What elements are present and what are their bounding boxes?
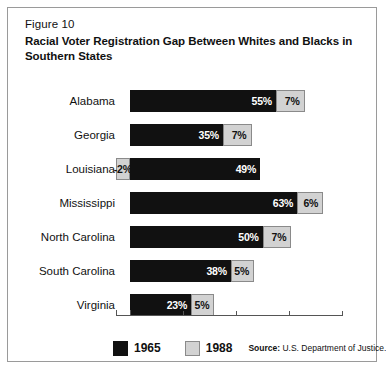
bar-value-1965: 35%	[195, 129, 223, 141]
chart-row: South Carolina38%5%	[8, 256, 376, 286]
figure-number: Figure 10	[25, 18, 74, 30]
bar-segment-1965: 49%	[130, 158, 260, 180]
bar-segment-1988: 7%	[223, 124, 252, 146]
bar-value-1965: 38%	[202, 265, 230, 277]
source-text: U.S. Department of Justice.	[282, 343, 386, 353]
bar-group: 55%7%	[8, 86, 376, 116]
axis-tick	[236, 311, 237, 316]
bar-group: 63%6%	[8, 188, 376, 218]
bar-segment-1988: 7%	[263, 226, 292, 248]
bar-group: 50%7%	[8, 222, 376, 252]
chart-row: Georgia35%7%	[8, 120, 376, 150]
source-prefix: Source:	[248, 343, 280, 353]
source-note: Source: U.S. Department of Justice.	[248, 343, 386, 353]
bar-segment-1988: 7%	[276, 90, 305, 112]
bar-segment-1965: 63%	[130, 192, 297, 214]
figure-title: Racial Voter Registration Gap Between Wh…	[25, 34, 355, 64]
bar-value-1988: 5%	[230, 265, 253, 277]
axis-tick-zero	[130, 310, 131, 316]
legend-label-1988: 1988	[206, 341, 233, 355]
bar-segment-1965: 23%	[130, 294, 191, 316]
axis-tick	[116, 310, 117, 316]
bar-value-1965: 49%	[232, 163, 260, 175]
bar-segment-1965: 55%	[130, 90, 276, 112]
chart-row: North Carolina50%7%	[8, 222, 376, 252]
bar-value-1988: 7%	[228, 129, 251, 141]
chart-plot-area: Alabama55%7%Georgia35%7%Louisiana-2%49%M…	[8, 78, 376, 313]
legend-swatch-1965	[113, 341, 128, 356]
chart-row: Louisiana-2%49%	[8, 154, 376, 184]
figure-frame: Figure 10 Racial Voter Registration Gap …	[7, 7, 377, 362]
legend-label-1965: 1965	[134, 341, 161, 355]
axis-tick	[289, 311, 290, 316]
x-axis-line	[116, 315, 343, 316]
axis-tick	[342, 311, 343, 316]
bar-segment-1965: 38%	[130, 260, 231, 282]
bar-segment-1988: 5%	[231, 260, 254, 282]
bar-value-1965: 63%	[269, 197, 297, 209]
bar-value-1988: 7%	[281, 95, 304, 107]
bar-segment-1988: -2%	[116, 158, 130, 180]
bar-group: 35%7%	[8, 120, 376, 150]
bar-segment-1988: 6%	[297, 192, 323, 214]
bar-group: 38%5%	[8, 256, 376, 286]
chart-row: Mississippi63%6%	[8, 188, 376, 218]
chart-legend: 1965 1988 Source: U.S. Department of Jus…	[8, 337, 376, 359]
x-axis	[8, 315, 376, 325]
bar-value-1988: 5%	[191, 299, 214, 311]
axis-tick	[183, 311, 184, 316]
bar-segment-1988: 5%	[191, 294, 214, 316]
bar-value-1965: 50%	[234, 231, 262, 243]
bar-value-1988: 6%	[299, 197, 322, 209]
legend-swatch-1988	[185, 341, 200, 356]
bar-segment-1965: 35%	[130, 124, 223, 146]
bar-value-1965: 23%	[163, 299, 191, 311]
bar-value-1988: 7%	[268, 231, 291, 243]
bar-group: -2%49%	[8, 154, 376, 184]
bar-value-1965: 55%	[248, 95, 276, 107]
bar-segment-1965: 50%	[130, 226, 263, 248]
chart-row: Alabama55%7%	[8, 86, 376, 116]
